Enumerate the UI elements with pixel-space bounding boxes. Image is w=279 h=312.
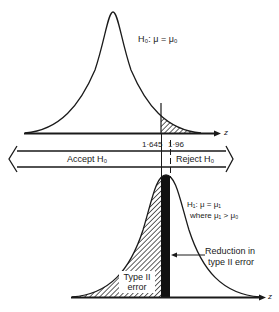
bottom-z-axis-label: z [268,292,272,302]
type2-error-label: Type II error [119,271,155,293]
accept-h0-label: Accept H₀ [67,154,107,164]
null-hypothesis-label: H₀: μ = μ₀ [138,34,178,44]
reduction-label-line1: Reduction in [205,246,255,256]
reject-h0-label: Reject H₀ [176,154,214,164]
alpha-region-hatch [25,12,201,133]
critical-value-196: 1·96 [168,140,184,150]
reduction-label-line2: type II error [208,257,254,267]
alt-hypothesis-label: H₁: μ = μ₁ [187,200,221,210]
type2-label-line2: error [121,282,153,292]
top-z-axis-label: z [224,128,228,138]
type2-label-line1: Type II [121,272,153,282]
alt-hypothesis-condition: where μ₁ > μ₀ [190,211,238,221]
critical-value-1645: 1·645 [142,140,162,150]
alternative-distribution-curve [72,175,260,297]
null-distribution-curve [25,12,201,134]
reduction-region [72,175,260,297]
